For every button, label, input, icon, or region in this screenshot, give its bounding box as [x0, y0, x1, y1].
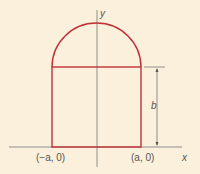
left-point-label: (−a, 0) [36, 152, 65, 163]
arrow-up-icon [156, 68, 159, 72]
rectangle [52, 67, 141, 147]
x-axis-label: x [181, 152, 188, 163]
diagram: y x (−a, 0) (a, 0) b [0, 0, 200, 174]
right-point-label: (a, 0) [131, 152, 154, 163]
semicircle [52, 23, 141, 67]
arrow-down-icon [156, 142, 159, 146]
height-label: b [151, 100, 157, 111]
y-axis-label: y [99, 8, 106, 19]
window-diagram: y x (−a, 0) (a, 0) b [0, 0, 200, 174]
